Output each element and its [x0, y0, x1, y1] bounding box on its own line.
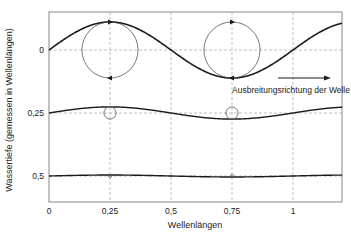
diagram-canvas: 00,250,50,751 00,250,5 Wellenlängen Wass… — [0, 0, 351, 237]
wave-curve — [49, 175, 342, 177]
orbit-arrow-icon — [230, 19, 235, 24]
orbit-arrow-icon — [229, 76, 234, 81]
x-tick-label: 0,5 — [165, 206, 177, 216]
x-tick-label: 1 — [291, 206, 296, 216]
y-axis-title: Wassertiefe (gemessen in Wellenlängen) — [4, 28, 14, 192]
orbit-arrow-icon — [108, 19, 113, 24]
propagation-label: Ausbreitungsrichtung der Welle — [232, 85, 350, 95]
y-tick-label: 0,5 — [32, 171, 44, 181]
x-tick-label: 0,75 — [224, 206, 241, 216]
wave-orbit-diagram: 00,250,50,751 00,250,5 Wellenlängen Wass… — [0, 0, 351, 237]
x-tick-label: 0,25 — [102, 206, 119, 216]
y-axis-ticks: 00,250,5 — [27, 45, 44, 181]
y-tick-label: 0,25 — [27, 108, 44, 118]
propagation-annotation: Ausbreitungsrichtung der Welle — [232, 76, 350, 96]
y-tick-label: 0 — [39, 45, 44, 55]
wave-curves — [49, 22, 342, 177]
arrowhead-icon — [324, 76, 331, 81]
x-axis-ticks: 00,250,50,751 — [47, 206, 296, 216]
x-axis-title: Wellenlängen — [168, 220, 222, 230]
orbit-arrow-icon — [107, 76, 112, 81]
x-tick-label: 0 — [47, 206, 52, 216]
